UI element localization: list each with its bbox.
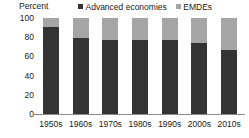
x-axis-tick-label: 1990s xyxy=(155,119,185,131)
x-axis-tick-label: 2000s xyxy=(185,119,215,131)
bar-slot xyxy=(185,18,215,114)
legend-swatch-advanced-economies xyxy=(78,4,83,9)
stacked-bar-chart: Percent Advanced economies EMDEs 1008060… xyxy=(0,0,249,138)
y-axis-tick-label: 100 xyxy=(0,13,34,23)
x-axis-tick-label: 1970s xyxy=(95,119,125,131)
stacked-bar[interactable] xyxy=(191,18,207,114)
legend-item-advanced-economies: Advanced economies xyxy=(78,2,167,12)
bar-group xyxy=(36,18,244,114)
y-axis-tick-label: 20 xyxy=(0,90,34,100)
y-axis-tick-label: 60 xyxy=(0,51,34,61)
legend-swatch-emdes xyxy=(176,4,181,9)
stacked-bar[interactable] xyxy=(102,18,118,114)
y-axis-tick-label: 0 xyxy=(0,109,34,119)
bar-segment-emdes[interactable] xyxy=(221,18,237,50)
bar-segment-advanced-economies[interactable] xyxy=(191,43,207,114)
bar-segment-emdes[interactable] xyxy=(191,18,207,43)
bar-slot xyxy=(36,18,66,114)
stacked-bar[interactable] xyxy=(132,18,148,114)
stacked-bar[interactable] xyxy=(162,18,178,114)
bar-segment-advanced-economies[interactable] xyxy=(73,38,89,114)
stacked-bar[interactable] xyxy=(73,18,89,114)
y-axis-tick-label: 80 xyxy=(0,32,34,42)
plot-area xyxy=(36,18,244,114)
x-axis-tick-label: 2010s xyxy=(214,119,244,131)
bar-segment-advanced-economies[interactable] xyxy=(162,40,178,114)
bar-segment-emdes[interactable] xyxy=(162,18,178,40)
legend-label-advanced-economies: Advanced economies xyxy=(86,2,167,12)
bar-slot xyxy=(66,18,96,114)
bar-segment-advanced-economies[interactable] xyxy=(43,27,59,114)
x-axis-tick-label: 1950s xyxy=(36,119,66,131)
bar-slot xyxy=(155,18,185,114)
y-axis-tick-label: 40 xyxy=(0,71,34,81)
legend-label-emdes: EMDEs xyxy=(183,2,212,12)
legend-item-emdes: EMDEs xyxy=(176,2,212,12)
x-axis-labels: 1950s1960s1970s1980s1990s2000s2010s xyxy=(36,119,244,131)
bar-segment-emdes[interactable] xyxy=(43,18,59,27)
chart-legend: Advanced economies EMDEs xyxy=(78,1,248,12)
bar-slot xyxy=(125,18,155,114)
bar-slot xyxy=(214,18,244,114)
x-axis-tick-label: 1960s xyxy=(66,119,96,131)
bar-slot xyxy=(95,18,125,114)
stacked-bar[interactable] xyxy=(43,18,59,114)
bar-segment-advanced-economies[interactable] xyxy=(102,40,118,114)
y-axis-unit-label: Percent xyxy=(19,1,48,11)
bar-segment-emdes[interactable] xyxy=(102,18,118,40)
bar-segment-advanced-economies[interactable] xyxy=(221,50,237,114)
bar-segment-advanced-economies[interactable] xyxy=(132,40,148,114)
x-axis-tick-label: 1980s xyxy=(125,119,155,131)
stacked-bar[interactable] xyxy=(221,18,237,114)
bar-segment-emdes[interactable] xyxy=(73,18,89,38)
bar-segment-emdes[interactable] xyxy=(132,18,148,40)
